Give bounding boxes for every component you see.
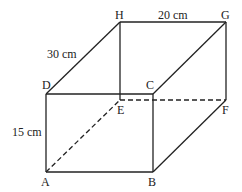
vertex-label-H: H <box>115 9 124 21</box>
vertex-label-D: D <box>42 79 51 91</box>
edge-GC <box>153 22 226 94</box>
vertex-label-C: C <box>146 79 154 91</box>
vertex-label-F: F <box>222 104 229 116</box>
dimension-label-DH: 30 cm <box>47 48 77 60</box>
hidden-edge-AE <box>46 100 120 172</box>
vertex-label-B: B <box>148 176 156 188</box>
edge-FB <box>153 100 226 172</box>
vertex-label-G: G <box>221 9 230 21</box>
cuboid-diagram: H G D C E F A B 20 cm 30 cm 15 cm <box>0 0 242 192</box>
dimension-label-HG: 20 cm <box>158 9 188 21</box>
dimension-label-AD: 15 cm <box>12 126 42 138</box>
cuboid-drawing <box>0 0 242 192</box>
vertex-label-E: E <box>117 104 124 116</box>
vertex-label-A: A <box>41 176 50 188</box>
